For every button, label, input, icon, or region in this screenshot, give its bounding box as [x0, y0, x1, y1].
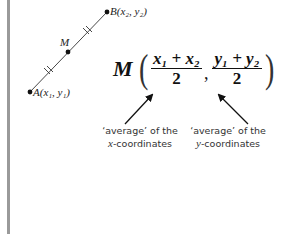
x-denominator: 2	[172, 69, 181, 89]
point-m-dot	[66, 50, 71, 55]
midpoint-figure	[0, 0, 299, 234]
point-a-label: A(x₁, y₁)	[33, 86, 70, 98]
arrow-y-average	[219, 95, 248, 124]
y-average-caption: ‘average’ of the y-coordinates	[188, 124, 268, 150]
formula-point-name: M	[113, 56, 133, 82]
x-caption-line2: x-coordinates	[100, 137, 180, 150]
point-a-dot	[28, 90, 33, 95]
close-paren: )	[265, 49, 274, 89]
point-b-dot	[105, 10, 110, 15]
y-caption-line2: y-coordinates	[188, 137, 268, 150]
y-caption-rest: -coordinates	[201, 138, 260, 149]
comma: ,	[204, 55, 209, 84]
point-b-label: B(x₂, y₂)	[110, 5, 147, 17]
point-m-label: M	[60, 36, 69, 48]
x-caption-rest: -coordinates	[113, 138, 172, 149]
y-denominator: 2	[233, 69, 242, 89]
y-fraction: y₁ + y₂ 2	[212, 49, 261, 89]
y-caption-line1: ‘average’ of the	[188, 124, 268, 137]
x-fraction: x₁ + x₂ 2	[151, 49, 202, 89]
equal-tick-mark-mb	[83, 26, 92, 34]
arrow-x-average	[125, 95, 152, 124]
midpoint-formula: M ( x₁ + x₂ 2 , y₁ + y₂ 2 )	[113, 47, 276, 91]
x-numerator: x₁ + x₂	[151, 49, 202, 69]
x-average-caption: ‘average’ of the x-coordinates	[100, 124, 180, 150]
y-numerator: y₁ + y₂	[212, 49, 261, 69]
x-caption-line1: ‘average’ of the	[100, 124, 180, 137]
open-paren: (	[139, 49, 148, 89]
